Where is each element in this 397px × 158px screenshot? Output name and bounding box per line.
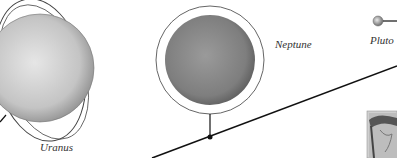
uranus-label: Uranus bbox=[40, 141, 73, 153]
engraving-thumbnail bbox=[367, 111, 397, 158]
pluto-label: Pluto bbox=[370, 34, 394, 46]
planet-diagram: Uranus Neptune Pluto bbox=[0, 0, 397, 158]
neptune-label: Neptune bbox=[275, 38, 312, 50]
uranus-planet bbox=[0, 14, 94, 122]
diagram-graphics bbox=[0, 0, 397, 158]
neptune-planet bbox=[165, 15, 255, 105]
pluto-planet bbox=[373, 16, 383, 26]
